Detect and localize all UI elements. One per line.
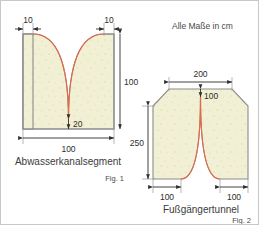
figure-1-dim-height: 100	[124, 77, 138, 87]
figure-2-label: Fig. 2	[232, 216, 251, 225]
figure-2-dim-height: 250	[130, 138, 144, 148]
units-note: Alle Maße in cm	[172, 21, 233, 31]
figure-1-dim-width: 100	[61, 144, 75, 154]
technical-drawing-canvas: Alle Maße in cm 10 10 100	[1, 1, 259, 225]
diagram-page: Alle Maße in cm 10 10 100	[0, 0, 259, 225]
figure-2-dim-top-width: 200	[193, 69, 207, 79]
figure-2-dim-arch-height: 100	[204, 91, 218, 101]
figure-2-caption: Fußgängertunnel	[163, 204, 239, 215]
figure-1-caption: Abwasserkanalsegment	[15, 156, 121, 167]
figure-2-group: 200 100 250 100 100 Fußgängertunnel Fig.…	[130, 69, 251, 225]
figure-1-dim-bottom-clearance: 20	[73, 119, 83, 129]
figure-1-group: 10 10 100 20 100 Abwasserkanalsegment Fi…	[15, 15, 139, 183]
figure-1-dim-top-left-wall: 10	[23, 15, 33, 25]
figure-1-label: Fig. 1	[105, 174, 124, 183]
figure-1-dim-top-right-wall: 10	[104, 15, 114, 25]
figure-2-dim-foot-right: 100	[227, 192, 241, 202]
figure-1-left-wall-fill	[23, 34, 33, 129]
figure-2-dim-foot-left: 100	[160, 192, 174, 202]
